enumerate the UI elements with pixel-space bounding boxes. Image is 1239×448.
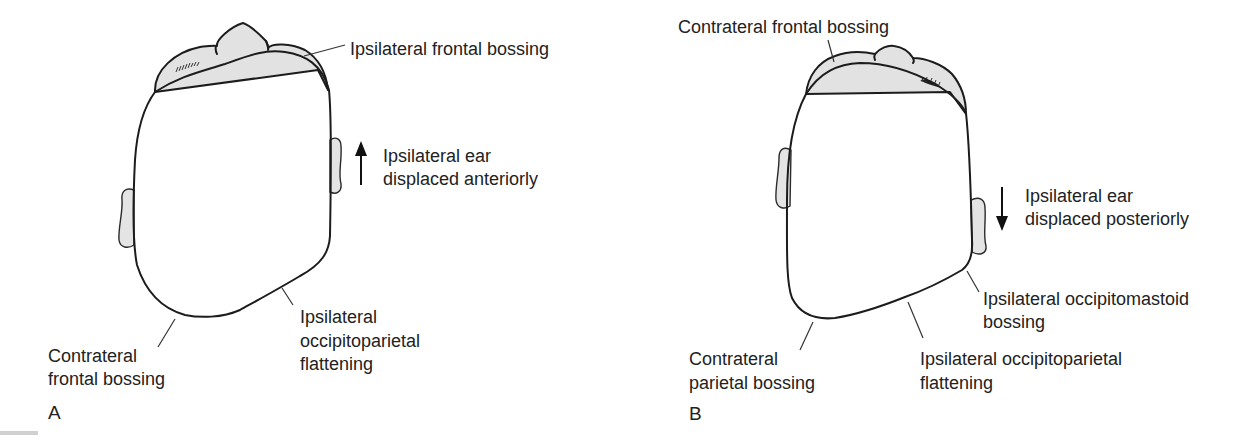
label-b-occipitomastoid-line1: Ipsilateral occipitomastoid [983, 289, 1189, 309]
scan-artifact-bar [0, 431, 38, 435]
leader-b-occipitomastoid [967, 271, 979, 292]
leader-b-flattening [908, 302, 923, 338]
label-a-flattening-line3: flattening [300, 354, 373, 374]
label-a-contrateral-line1: Contrateral [48, 346, 137, 366]
label-b-ear-line2: displaced posteriorly [1025, 209, 1189, 229]
panel-a: Ipsilateral frontal bossing Ipsilateral … [48, 23, 549, 423]
label-b-contrateral-frontal-bossing: Contrateral frontal bossing [678, 17, 889, 37]
panel-b: Contrateral frontal bossing Ipsilateral … [678, 17, 1189, 424]
label-b-flattening-line2: flattening [920, 373, 993, 393]
arrow-down-icon [996, 187, 1008, 231]
panel-letter-b: B [689, 403, 702, 424]
leader-a-flattening [282, 288, 293, 305]
figure-canvas: Ipsilateral frontal bossing Ipsilateral … [0, 0, 1239, 448]
head-outline-b [787, 63, 972, 318]
label-b-parietal-line2: parietal bossing [689, 373, 815, 393]
label-a-contrateral-line2: frontal bossing [48, 369, 165, 389]
label-a-ear-line2: displaced anteriorly [383, 169, 538, 189]
panel-letter-a: A [48, 402, 61, 423]
label-a-ipsilateral-frontal-bossing: Ipsilateral frontal bossing [350, 39, 549, 59]
label-a-flattening-line1: Ipsilateral [300, 307, 377, 327]
leader-a-frontal [304, 45, 345, 56]
face-shape-b [806, 46, 966, 114]
label-b-flattening-line1: Ipsilateral occipitoparietal [920, 349, 1122, 369]
ear-left-a [119, 189, 134, 247]
ear-right-b [971, 198, 986, 254]
label-b-occipitomastoid-line2: bossing [983, 312, 1045, 332]
arrow-up-icon [355, 141, 367, 185]
label-b-parietal-line1: Contrateral [689, 349, 778, 369]
label-b-ear-line1: Ipsilateral ear [1025, 186, 1133, 206]
leader-b-parietal [800, 322, 813, 350]
label-a-flattening-line2: occipitoparietal [300, 331, 420, 351]
label-a-ear-line1: Ipsilateral ear [383, 146, 491, 166]
leader-a-contrateral [158, 319, 175, 347]
